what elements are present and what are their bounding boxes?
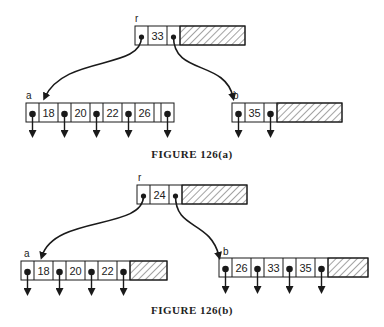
key: 35 <box>299 262 311 274</box>
key: 18 <box>37 265 49 277</box>
key: 26 <box>235 262 247 274</box>
key: 24 <box>153 189 165 201</box>
unused-space <box>180 26 245 45</box>
leaf-node-b: b 26 33 35 <box>219 246 368 290</box>
key: 33 <box>151 30 163 42</box>
pointer-arrow-to-a <box>45 37 142 97</box>
unused-space <box>277 103 342 122</box>
node-label-b: b <box>223 246 229 257</box>
key: 26 <box>138 107 150 119</box>
key: 35 <box>248 107 260 119</box>
unused-space <box>130 261 167 280</box>
figure-b: r 24 a 18 20 22 <box>21 172 368 317</box>
root-node: r 24 <box>137 172 247 204</box>
figure-caption-a: FIGURE 126(a) <box>151 148 232 161</box>
node-label-r: r <box>135 13 139 24</box>
key: 20 <box>74 107 86 119</box>
pointer-arrow-to-a <box>42 196 144 256</box>
node-label-a: a <box>26 90 32 101</box>
leaf-node-a: a 18 20 22 26 <box>26 90 174 134</box>
key: 20 <box>69 265 81 277</box>
key: 22 <box>101 265 113 277</box>
root-node: r 33 <box>135 13 245 45</box>
node-label-b: b <box>233 90 239 101</box>
key: 18 <box>42 107 54 119</box>
node-label-a: a <box>24 248 30 259</box>
pointer-arrow-to-b <box>174 37 234 97</box>
figure-caption-b: FIGURE 126(b) <box>151 304 233 317</box>
leaf-node-b: b 35 <box>232 90 342 134</box>
unused-space <box>182 185 247 204</box>
unused-space <box>328 258 368 277</box>
pointer-arrow-to-b <box>176 196 220 256</box>
key: 22 <box>106 107 118 119</box>
key: 33 <box>267 262 279 274</box>
node-label-r: r <box>138 172 142 183</box>
figure-a: r 33 a 18 20 22 <box>26 13 342 161</box>
btree-diagram: r 33 a 18 20 22 <box>0 0 384 327</box>
